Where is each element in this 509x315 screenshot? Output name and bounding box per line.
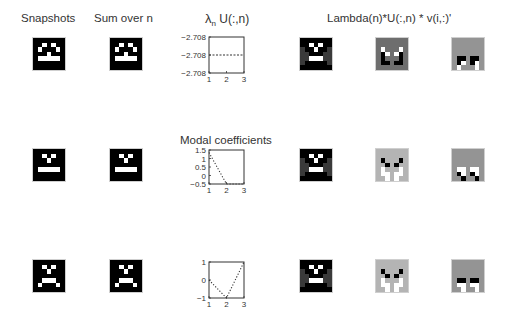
y-tick-label: −2.708 xyxy=(181,51,206,60)
pixel xyxy=(403,176,408,181)
mode2-row3 xyxy=(375,259,409,293)
pixel xyxy=(479,176,484,181)
pixel xyxy=(479,287,484,292)
sum-frown xyxy=(109,259,143,293)
x-tick-label: 3 xyxy=(242,300,247,309)
mode1-row2 xyxy=(299,148,333,182)
pixel xyxy=(327,287,332,292)
mode1-row3 xyxy=(299,259,333,293)
x-tick-label: 3 xyxy=(242,186,247,195)
x-tick-label: 1 xyxy=(207,186,212,195)
x-tick-label: 3 xyxy=(242,75,247,84)
x-tick-label: 1 xyxy=(207,300,212,309)
y-tick-label: −1 xyxy=(197,294,207,303)
y-tick-label: −2.708 xyxy=(181,69,206,78)
pixel xyxy=(137,65,142,70)
mode2-row1 xyxy=(375,37,409,71)
pixel xyxy=(137,176,142,181)
sum-over-n-title: Sum over n xyxy=(94,12,153,24)
snapshots-title: Snapshots xyxy=(21,12,75,24)
mode3-row3 xyxy=(451,259,485,293)
y-tick-label: −2.708 xyxy=(181,33,206,42)
x-tick-label: 2 xyxy=(224,186,229,195)
x-tick-label: 2 xyxy=(224,75,229,84)
pixel xyxy=(327,65,332,70)
lambda-u-title: λn U(:,n) xyxy=(205,11,249,28)
pixel xyxy=(60,65,65,70)
reconstruction-title: Lambda(n)*U(:,n) * v(i,:)' xyxy=(327,12,451,24)
mode1-row1 xyxy=(299,37,333,71)
lambda-u-plot: −2.708−2.708−2.708123 xyxy=(150,30,270,94)
y-tick-label: 1 xyxy=(202,258,207,267)
modal-coefficients-plot-row3: 10−1123 xyxy=(150,259,270,315)
modal-coefficients-title: Modal coefficients xyxy=(180,134,272,146)
lambda-u-text: U(:,n) xyxy=(216,12,249,26)
y-tick-label: −0.5 xyxy=(190,180,206,189)
plot-axes-box xyxy=(209,262,244,298)
pixel xyxy=(60,287,65,292)
modal-coefficients-plot-row2: 1.510.50−0.5123 xyxy=(150,148,270,212)
plot-axes-box xyxy=(209,150,244,184)
snapshot-neutral xyxy=(32,148,66,182)
sum-neutral xyxy=(109,148,143,182)
sum-smile xyxy=(109,37,143,71)
y-tick-label: 0 xyxy=(202,276,207,285)
pixel xyxy=(60,176,65,181)
x-tick-label: 2 xyxy=(224,300,229,309)
pixel xyxy=(327,176,332,181)
pixel xyxy=(137,287,142,292)
snapshot-smile xyxy=(32,37,66,71)
mode3-row2 xyxy=(451,148,485,182)
pixel xyxy=(403,287,408,292)
snapshot-frown xyxy=(32,259,66,293)
mode3-row1 xyxy=(451,37,485,71)
pixel xyxy=(479,65,484,70)
pixel xyxy=(403,65,408,70)
x-tick-label: 1 xyxy=(207,75,212,84)
mode2-row2 xyxy=(375,148,409,182)
